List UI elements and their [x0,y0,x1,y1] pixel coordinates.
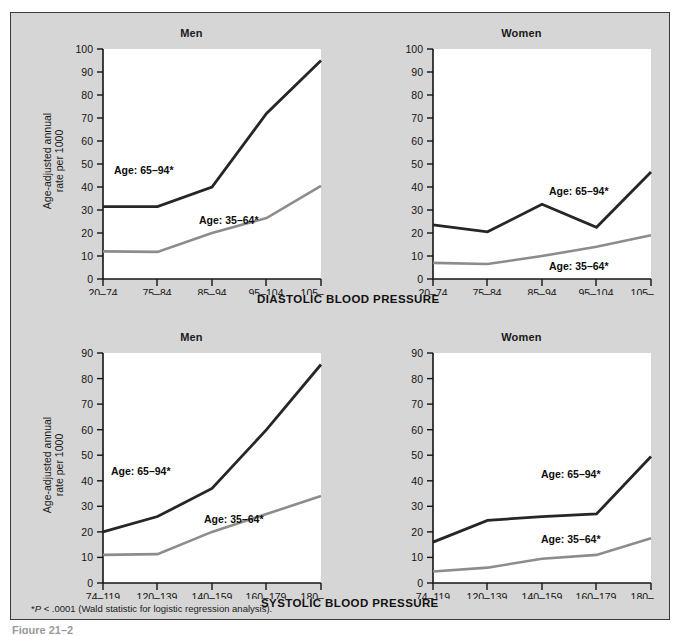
y-tick-label: 80 [411,373,423,385]
y-tick-label: 30 [411,204,423,216]
plot-men-systolic: 90 80 70 60 50 40 30 20 10 0 74–119 120–… [59,347,324,599]
x-axis: 74–119 120–139 140–159 160–179 180–300 [416,583,654,599]
y-tick-label: 80 [81,89,93,101]
x-tick-label: 20–74 [88,287,117,295]
y-tick-label: 0 [87,577,93,589]
plot-background [433,49,651,279]
figure-caption-sliver: Figure 21–2 [12,624,73,634]
series-annotation-younger: Age: 35–64* [541,533,601,545]
y-tick-label: 0 [417,273,423,285]
panel-title: Women [389,27,654,39]
panel-women-systolic: Women 90 80 70 [389,331,654,601]
plot-women-systolic: 90 80 70 60 50 40 30 20 10 0 74–119 120–… [389,347,654,599]
y-tick-label: 40 [411,181,423,193]
y-ticks [97,49,103,279]
x-tick-label: 95–104 [578,287,613,295]
x-tick-label: 180–300 [631,591,654,599]
y-tick-label: 0 [87,273,93,285]
x-tick-label: 74–119 [86,591,120,599]
y-axis: 100 90 80 70 60 50 40 30 20 10 0 [405,43,433,285]
y-tick-label: 40 [81,181,93,193]
series-annotation-older: Age: 65–94* [541,468,601,480]
y-tick-label: 30 [81,204,93,216]
y-tick-label: 70 [411,398,423,410]
y-tick-label: 10 [81,551,93,563]
panel-women-diastolic: Women 100 90 [389,27,654,297]
x-tick-label: 85–94 [527,287,556,295]
x-tick-label: 75–84 [142,287,171,295]
x-tick-label: 75–84 [472,287,501,295]
y-axis: 100 90 80 70 60 50 40 30 20 10 0 [75,43,103,285]
y-tick-label: 10 [81,250,93,262]
y-tick-label: 50 [411,449,423,461]
y-ticks [427,353,433,583]
y-ticks [427,49,433,279]
plot-men-diastolic: 100 90 80 70 60 50 40 30 20 10 0 20–74 [59,43,324,295]
y-tick-label: 20 [411,526,423,538]
series-annotation-younger: Age: 35–64* [204,513,264,525]
x-tick-label: 85–94 [197,287,226,295]
y-tick-label: 100 [75,43,93,55]
panel-title: Men [59,27,324,39]
y-tick-label: 90 [411,66,423,78]
x-tick-label: 105–160 [631,287,654,295]
y-tick-label: 90 [81,66,93,78]
series-annotation-older: Age: 65–94* [549,185,609,197]
y-tick-label: 40 [411,475,423,487]
y-tick-label: 70 [81,112,93,124]
y-tick-label: 10 [411,551,423,563]
y-tick-label: 90 [81,347,93,359]
x-axis-title-systolic: SYSTOLIC BLOOD PRESSURE [261,597,439,609]
y-tick-label: 70 [81,398,93,410]
y-axis: 90 80 70 60 50 40 30 20 10 0 [81,347,103,589]
y-tick-label: 50 [411,158,423,170]
x-axis-title-diastolic: DIASTOLIC BLOOD PRESSURE [257,293,440,305]
x-tick-label: 120–139 [467,591,508,599]
y-tick-label: 60 [411,135,423,147]
y-axis-label-line1: Age-adjusted annual [41,417,53,513]
footnote: *P < .0001 (Wald statistic for logistic … [31,603,272,614]
x-axis: 20–74 75–84 85–94 95–104 105–160 [418,279,654,295]
y-tick-label: 90 [411,347,423,359]
y-tick-label: 60 [411,424,423,436]
y-ticks [97,353,103,583]
y-tick-label: 80 [81,373,93,385]
y-tick-label: 30 [81,500,93,512]
y-tick-label: 30 [411,500,423,512]
y-axis: 90 80 70 60 50 40 30 20 10 0 [411,347,433,589]
y-tick-label: 50 [81,449,93,461]
series-annotation-younger: Age: 35–64* [199,214,259,226]
x-tick-label: 140–159 [192,591,233,599]
y-tick-label: 20 [81,227,93,239]
y-tick-label: 40 [81,475,93,487]
y-tick-label: 50 [81,158,93,170]
y-tick-label: 10 [411,250,423,262]
panel-title: Men [59,331,324,343]
panel-title: Women [389,331,654,343]
y-tick-label: 0 [417,577,423,589]
y-tick-label: 20 [411,227,423,239]
y-tick-label: 80 [411,89,423,101]
series-annotation-younger: Age: 35–64* [549,260,609,272]
y-tick-label: 60 [81,135,93,147]
y-tick-label: 70 [411,112,423,124]
panel-men-systolic: Men 90 80 70 [59,331,324,601]
x-tick-label: 140–159 [522,591,563,599]
y-tick-label: 60 [81,424,93,436]
series-annotation-older: Age: 65–94* [114,164,174,176]
x-tick-label: 120–139 [137,591,178,599]
plot-women-diastolic: 100 90 80 70 60 50 40 30 20 10 0 20–74 [389,43,654,295]
footnote-text: < .0001 (Wald statistic for logistic reg… [41,603,272,614]
series-annotation-older: Age: 65–94* [111,465,171,477]
x-tick-label: 160–179 [576,591,617,599]
y-tick-label: 20 [81,526,93,538]
figure-frame: Age-adjusted annual rate per 1000 Age-ad… [10,12,670,620]
panel-men-diastolic: Men 100 90 [59,27,324,297]
y-axis-label-line1: Age-adjusted annual [41,113,53,209]
y-tick-label: 100 [405,43,423,55]
